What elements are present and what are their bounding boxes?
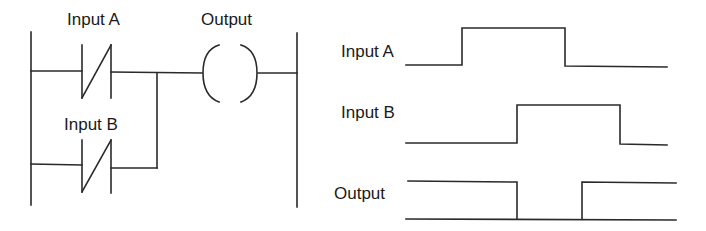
timing-signal-input-a: Input A [341, 28, 667, 67]
ladder-and-timing-diagram: Input A Output Input B Input A Input B [0, 0, 706, 231]
coil-label: Output [201, 10, 252, 29]
contact-input-b-icon [82, 140, 111, 193]
waveform-output-high-1 [408, 181, 517, 219]
ladder-diagram: Input A Output Input B [31, 10, 297, 207]
timing-signal-input-b: Input B [341, 103, 667, 145]
timing-label-output: Output [334, 184, 385, 203]
coil-output-icon [203, 45, 257, 102]
timing-diagram: Input A Input B Output [334, 28, 676, 220]
contact-input-a-icon [82, 45, 111, 98]
waveform-output-baseline [406, 219, 676, 220]
contact-b-label: Input B [64, 115, 118, 134]
rung-1: Input A Output [31, 10, 297, 102]
rung-2-wire-left [31, 164, 82, 165]
timing-label-input-a: Input A [341, 42, 395, 61]
waveform-output-high-2 [582, 182, 676, 219]
timing-signal-output: Output [334, 181, 676, 220]
contact-a-label: Input A [67, 10, 121, 29]
waveform-input-a [406, 28, 667, 67]
waveform-input-b [406, 105, 667, 145]
timing-label-input-b: Input B [341, 103, 395, 122]
rung-2-branch: Input B [31, 73, 157, 193]
